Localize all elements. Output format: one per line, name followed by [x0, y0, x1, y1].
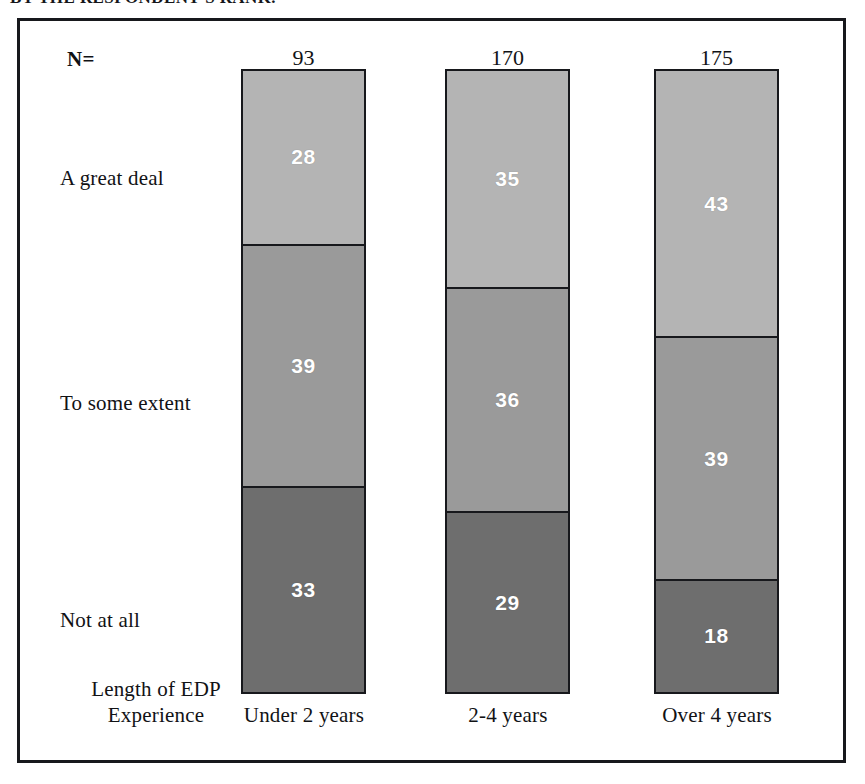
- x-axis-label-over-4-years: Over 4 years: [622, 703, 812, 728]
- row-label-not-at-all: Not at all: [60, 608, 255, 633]
- figure-caption: BY THE RESPONDENT'S RANK.: [10, 0, 276, 8]
- bar-segment-not-at-all-under-2-years[interactable]: 33: [243, 486, 364, 692]
- bar-segment-value: 18: [704, 624, 728, 648]
- sample-size-value-2-4-years: 170: [445, 45, 570, 71]
- sample-size-key-label: N=: [67, 47, 95, 72]
- figure-caption-clip: BY THE RESPONDENT'S RANK.: [0, 0, 865, 13]
- x-axis-label-under-2-years: Under 2 years: [209, 703, 399, 728]
- chart-plot-area: N= 93 170 175 A great deal To some exten…: [20, 21, 843, 760]
- stacked-bar-over-4-years[interactable]: 43 39 18: [654, 69, 779, 694]
- bar-segment-value: 36: [495, 388, 519, 412]
- row-label-a-great-deal: A great deal: [60, 166, 255, 191]
- row-label-to-some-extent: To some extent: [60, 391, 255, 416]
- bar-segment-a-great-deal-over-4-years[interactable]: 43: [656, 71, 777, 336]
- x-axis-title-line-1: Length of EDP: [56, 677, 256, 703]
- bar-segment-to-some-extent-over-4-years[interactable]: 39: [656, 336, 777, 579]
- stacked-bar-2-4-years[interactable]: 35 36 29: [445, 69, 570, 694]
- bar-segment-value: 39: [291, 354, 315, 378]
- bar-segment-value: 28: [291, 145, 315, 169]
- bar-segment-value: 35: [495, 167, 519, 191]
- bar-segment-value: 29: [495, 591, 519, 615]
- bar-segment-a-great-deal-under-2-years[interactable]: 28: [243, 71, 364, 244]
- stacked-bar-under-2-years[interactable]: 28 39 33: [241, 69, 366, 694]
- bar-segment-value: 43: [704, 192, 728, 216]
- bar-segment-a-great-deal-2-4-years[interactable]: 35: [447, 71, 568, 287]
- bar-segment-value: 33: [291, 578, 315, 602]
- chart-frame: N= 93 170 175 A great deal To some exten…: [17, 18, 846, 763]
- bar-segment-not-at-all-2-4-years[interactable]: 29: [447, 511, 568, 692]
- bar-segment-to-some-extent-under-2-years[interactable]: 39: [243, 244, 364, 487]
- sample-size-value-over-4-years: 175: [654, 45, 779, 71]
- bar-segment-value: 39: [704, 447, 728, 471]
- bar-segment-not-at-all-over-4-years[interactable]: 18: [656, 579, 777, 692]
- sample-size-value-under-2-years: 93: [241, 45, 366, 71]
- bar-segment-to-some-extent-2-4-years[interactable]: 36: [447, 287, 568, 511]
- x-axis-label-2-4-years: 2-4 years: [413, 703, 603, 728]
